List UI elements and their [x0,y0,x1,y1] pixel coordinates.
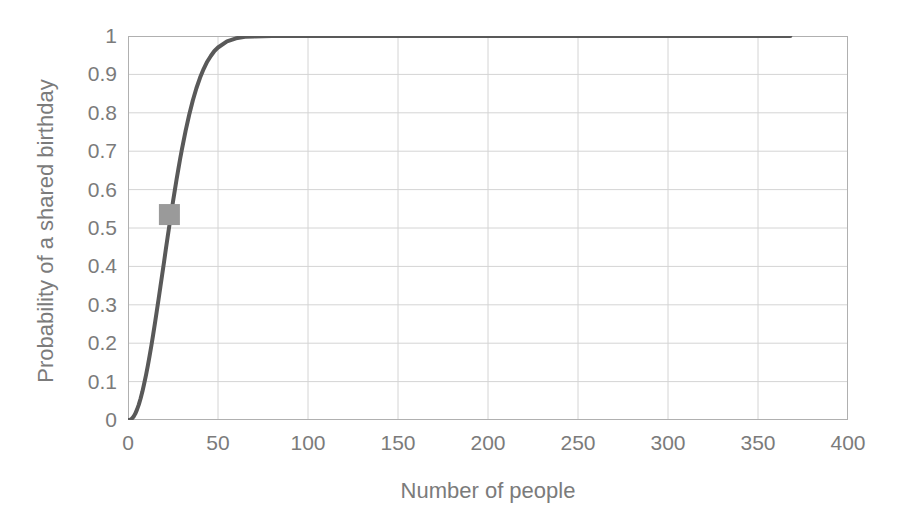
y-axis-tick-label: 0 [57,409,117,430]
plot-svg [128,36,848,420]
x-axis-tick-label: 400 [830,432,865,453]
grid-lines [128,36,848,420]
x-axis-tick-labels: 050100150200250300350400 [128,432,848,464]
y-axis-tick-label: 0.5 [57,217,117,238]
x-axis-tick-label: 300 [650,432,685,453]
x-axis-tick-label: 50 [206,432,229,453]
x-axis-tick-label: 100 [290,432,325,453]
birthday-probability-chart: Probability of a shared birthday 00.10.2… [0,0,904,531]
y-axis-tick-label: 0.7 [57,140,117,161]
x-axis-tick-label: 250 [560,432,595,453]
y-axis-tick-label: 0.2 [57,332,117,353]
y-axis-tick-label: 0.3 [57,294,117,315]
y-axis-tick-label: 0.8 [57,102,117,123]
y-axis-tick-label: 0.4 [57,255,117,276]
x-axis-tick-label: 200 [470,432,505,453]
plot-area [128,36,848,420]
y-axis-tick-labels: 00.10.20.30.40.50.60.70.80.91 [55,36,117,420]
y-axis-tick-label: 0.1 [57,371,117,392]
y-axis-tick-label: 0.6 [57,179,117,200]
y-axis-title-container: Probability of a shared birthday [0,14,46,424]
y-axis-tick-label: 1 [57,25,117,46]
highlight-marker [159,204,180,225]
x-axis-tick-label: 0 [122,432,134,453]
data-marker-group [159,204,180,225]
y-axis-tick-label: 0.9 [57,63,117,84]
x-axis-title: Number of people [128,478,848,504]
x-axis-tick-label: 150 [380,432,415,453]
x-axis-tick-label: 350 [740,432,775,453]
